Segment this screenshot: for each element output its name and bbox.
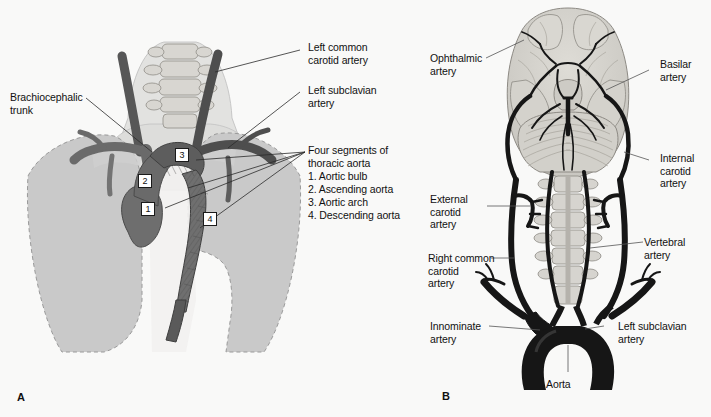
panel-letter-a: A	[17, 391, 25, 403]
label-four-segments-heading: Four segments of thoracic aorta	[308, 144, 388, 169]
label-internal-carotid-artery: Internal carotid artery	[660, 152, 694, 190]
label-left-subclavian-artery-a: Left subclavian artery	[308, 84, 377, 109]
label-segment-2-ascending-aorta: 2. Ascending aorta	[308, 183, 393, 196]
label-segment-4-descending-aorta: 4. Descending aorta	[308, 209, 400, 222]
label-right-common-carotid-artery: Right common carotid artery	[428, 252, 495, 290]
label-segment-3-aortic-arch: 3. Aortic arch	[308, 196, 368, 209]
label-basilar-artery: Basilar artery	[660, 58, 691, 83]
label-left-common-carotid-artery: Left common carotid artery	[308, 41, 368, 66]
label-segment-1-aortic-bulb: 1. Aortic bulb	[308, 170, 367, 183]
label-ophthalmic-artery: Ophthalmic artery	[430, 52, 482, 77]
label-left-subclavian-artery-b: Left subclavian artery	[618, 320, 687, 345]
label-external-carotid-artery: External carotid artery	[430, 193, 468, 231]
marker-4-descending-aorta: 4	[203, 212, 217, 226]
marker-1-aortic-bulb: 1	[141, 202, 155, 216]
label-innominate-artery: Innominate artery	[430, 320, 481, 345]
label-vertebral-artery: Vertebral artery	[644, 236, 685, 261]
marker-2-ascending-aorta: 2	[138, 174, 152, 188]
label-brachiocephalic-trunk: Brachiocephalic trunk	[10, 91, 83, 116]
right-internal-mammary	[109, 156, 112, 194]
left-internal-mammary	[228, 158, 230, 200]
marker-3-aortic-arch: 3	[175, 148, 189, 162]
label-aorta: Aorta	[546, 378, 571, 391]
panel-letter-b: B	[442, 390, 450, 402]
